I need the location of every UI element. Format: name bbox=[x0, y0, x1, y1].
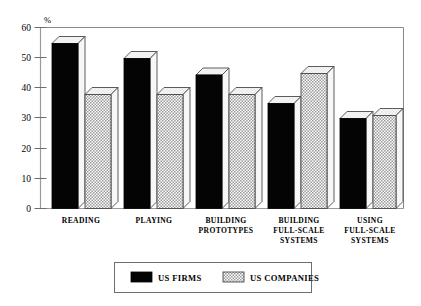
y-tick-label-0: 0 bbox=[26, 204, 31, 214]
y-tick-label-30: 30 bbox=[22, 113, 32, 123]
chart-legend: US FIRMS US COMPANIES bbox=[115, 263, 320, 293]
cat-label-building-full-scale-line1: BUILDING bbox=[278, 216, 319, 225]
bar-us-companies-building-full-scale-systems bbox=[301, 67, 334, 209]
solid-black-swatch bbox=[131, 272, 152, 282]
legend-entry-us-firms: US FIRMS bbox=[131, 272, 202, 283]
legend-label-us-firms: US FIRMS bbox=[158, 273, 202, 283]
bar-us-firms-using-full-scale-systems bbox=[340, 112, 373, 209]
bar-us-companies-reading bbox=[85, 88, 118, 209]
cat-label-using-full-scale-line3: SYSTEMS bbox=[351, 236, 389, 245]
y-tick-label-60: 60 bbox=[22, 23, 32, 33]
cat-label-using-full-scale-line2: FULL-SCALE bbox=[344, 226, 396, 235]
bar-group-reading bbox=[52, 37, 118, 209]
chart-figure: 60 50 40 30 20 10 0 % bbox=[0, 0, 421, 306]
bar-us-firms-building-prototypes bbox=[196, 68, 229, 209]
bar-us-firms-building-full-scale-systems bbox=[268, 97, 301, 209]
cat-label-playing-line1: PLAYING bbox=[136, 216, 173, 225]
y-tick-label-50: 50 bbox=[22, 53, 32, 63]
cat-label-building-full-scale-line3: SYSTEMS bbox=[280, 236, 318, 245]
cat-label-building-full-scale-line2: FULL-SCALE bbox=[273, 226, 325, 235]
bar-group-building-full-scale-systems bbox=[268, 67, 334, 209]
bar-group-playing bbox=[124, 52, 190, 209]
y-tick-label-10: 10 bbox=[22, 174, 32, 184]
bar-chart-svg: 60 50 40 30 20 10 0 % bbox=[0, 0, 421, 306]
cat-label-using-full-scale-line1: USING bbox=[357, 216, 383, 225]
bar-us-firms-playing bbox=[124, 52, 157, 209]
bar-us-companies-building-prototypes bbox=[229, 88, 262, 209]
bar-group-building-prototypes bbox=[196, 68, 262, 209]
bar-us-firms-reading bbox=[52, 37, 85, 209]
y-axis-ticks: 60 50 40 30 20 10 0 bbox=[22, 23, 47, 214]
bar-us-companies-playing bbox=[157, 88, 190, 209]
cat-label-reading-line1: READING bbox=[62, 216, 100, 225]
y-axis-unit-label: % bbox=[44, 15, 51, 25]
bar-group-using-full-scale-systems bbox=[340, 109, 403, 209]
legend-entry-us-companies: US COMPANIES bbox=[223, 272, 319, 283]
cat-label-building-prototypes-line2: PROTOTYPES bbox=[199, 226, 254, 235]
legend-label-us-companies: US COMPANIES bbox=[250, 273, 319, 283]
x-axis-category-labels: READING PLAYING BUILDING PROTOTYPES BUIL… bbox=[62, 216, 396, 245]
cat-label-building-prototypes-line1: BUILDING bbox=[205, 216, 246, 225]
y-tick-label-20: 20 bbox=[22, 144, 32, 154]
bar-us-companies-using-full-scale-systems bbox=[373, 109, 403, 209]
y-tick-label-40: 40 bbox=[22, 83, 32, 93]
checker-hatch-swatch bbox=[223, 272, 244, 282]
